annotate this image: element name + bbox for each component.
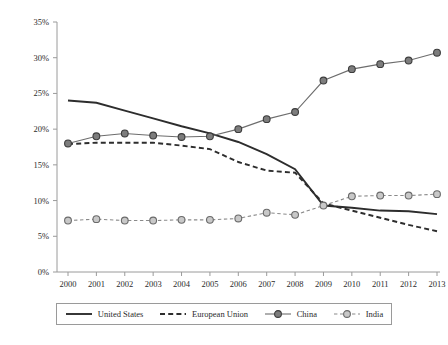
data-point-china — [150, 132, 157, 139]
y-tick-label: 0% — [38, 267, 49, 277]
data-point-china — [292, 109, 299, 116]
data-point-india — [150, 217, 157, 224]
legend-item-china[interactable]: China — [264, 308, 317, 320]
legend-marker — [343, 311, 350, 318]
data-point-india — [434, 191, 441, 198]
x-tick-label: 2006 — [230, 279, 247, 289]
y-tick-label: 10% — [33, 196, 49, 206]
x-tick-label: 2004 — [173, 279, 191, 289]
y-axis-ticks: 0%5%10%15%20%25%30%35% — [33, 17, 57, 277]
legend-label: European Union — [192, 309, 248, 319]
legend-item-us[interactable]: United States — [65, 308, 144, 320]
legend-item-eu[interactable]: European Union — [159, 308, 248, 320]
data-point-india — [320, 202, 327, 209]
legend-label: United States — [98, 309, 144, 319]
y-tick-label: 5% — [38, 231, 49, 241]
line-chart: 0%5%10%15%20%25%30%35% 20002001200220032… — [0, 0, 448, 345]
chart-legend: United StatesEuropean UnionChinaIndia — [56, 303, 392, 325]
data-point-china — [178, 134, 185, 141]
data-point-china — [93, 133, 100, 140]
marker-line-dark-swatch — [264, 308, 292, 320]
y-tick-label: 20% — [33, 124, 49, 134]
legend-label: India — [366, 309, 383, 319]
x-tick-label: 2008 — [287, 279, 304, 289]
x-tick-label: 2007 — [258, 279, 275, 289]
data-point-china — [348, 66, 355, 73]
x-tick-label: 2001 — [88, 279, 105, 289]
y-tick-label: 15% — [33, 160, 49, 170]
data-point-china — [65, 140, 72, 147]
data-point-india — [207, 216, 214, 223]
legend-marker — [274, 311, 281, 318]
x-tick-label: 2000 — [60, 279, 77, 289]
data-point-india — [405, 192, 412, 199]
x-tick-label: 2005 — [201, 279, 218, 289]
y-tick-label: 25% — [33, 88, 49, 98]
data-point-india — [348, 193, 355, 200]
x-tick-label: 2002 — [116, 279, 133, 289]
data-point-india — [235, 215, 242, 222]
x-axis-ticks: 2000200120022003200420052006200720082009… — [60, 272, 446, 289]
dashed-line-swatch — [159, 308, 187, 320]
data-point-china — [377, 61, 384, 68]
data-point-china — [207, 133, 214, 140]
x-tick-label: 2003 — [145, 279, 162, 289]
data-point-india — [93, 216, 100, 223]
x-tick-label: 2010 — [343, 279, 360, 289]
data-point-china — [121, 130, 128, 137]
data-point-india — [292, 211, 299, 218]
data-point-china — [263, 116, 270, 123]
marker-line-light-swatch — [333, 308, 361, 320]
data-point-india — [377, 192, 384, 199]
x-tick-label: 2012 — [400, 279, 417, 289]
x-tick-label: 2013 — [429, 279, 446, 289]
data-point-india — [121, 217, 128, 224]
data-point-china — [235, 126, 242, 133]
data-point-india — [65, 217, 72, 224]
x-tick-label: 2009 — [315, 279, 332, 289]
data-point-india — [178, 216, 185, 223]
data-point-china — [405, 57, 412, 64]
data-point-china — [320, 77, 327, 84]
series-layer — [65, 49, 441, 231]
y-tick-label: 35% — [33, 17, 49, 27]
data-point-india — [263, 209, 270, 216]
solid-line-swatch — [65, 308, 93, 320]
data-point-china — [434, 49, 441, 56]
plot-area: 0%5%10%15%20%25%30%35% 20002001200220032… — [0, 0, 448, 345]
legend-label: China — [297, 309, 317, 319]
x-tick-label: 2011 — [372, 279, 389, 289]
y-tick-label: 30% — [33, 53, 49, 63]
legend-item-india[interactable]: India — [333, 308, 383, 320]
